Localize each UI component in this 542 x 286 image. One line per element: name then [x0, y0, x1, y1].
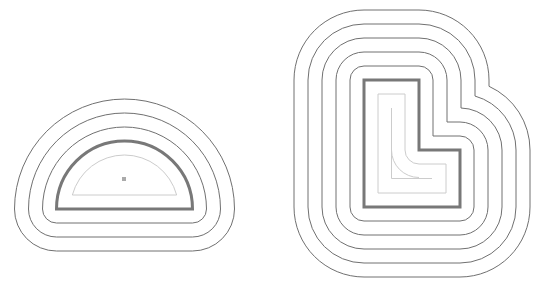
semicircle-inward-offset-14 [72, 155, 176, 195]
offset-curves-diagram [0, 0, 542, 286]
l-shape-outward-offset-70 [294, 10, 530, 277]
l-shape-group [294, 10, 530, 277]
l-shape-outward-offset-14 [350, 66, 474, 221]
l-shape-outward-offset-56 [308, 24, 516, 263]
semicircle-base-shape [57, 141, 193, 209]
l-shape-skeleton [392, 108, 433, 179]
semicircle-outward-offset-42 [15, 99, 235, 251]
semicircle-group [15, 99, 235, 251]
semicircle-outward-offset-28 [29, 113, 221, 237]
semicircle-center-dot [122, 177, 126, 181]
l-shape-outward-offset-42 [322, 38, 502, 249]
